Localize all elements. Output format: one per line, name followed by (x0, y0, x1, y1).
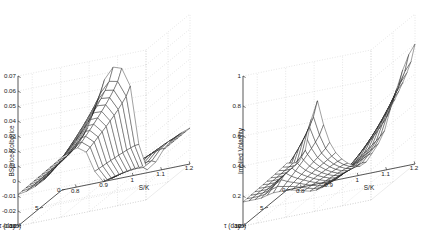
mesh-layer (243, 44, 415, 202)
x-axis-title: S/K (139, 184, 150, 191)
gridline-z-backwall (18, 50, 146, 76)
z-tick-label: 0.07 (4, 72, 17, 79)
x-tick-label: 1 (355, 176, 359, 183)
surface-plot-bsprice-kolbprice: -0.03-0.02-0.0100.010.020.030.040.050.06… (0, 0, 221, 241)
z-tick-label: 0.06 (4, 87, 17, 94)
y-axis-title: τ (days) (224, 222, 246, 230)
gridline-x-floor (61, 181, 105, 217)
gridline-z-backwall (243, 80, 371, 106)
mesh-quad (18, 188, 31, 195)
mesh-quad (58, 152, 71, 160)
x-tick-label: 1.1 (381, 170, 390, 177)
z-tick-label: 0.2 (232, 192, 241, 199)
x-axis-title: S/K (364, 184, 375, 191)
mesh-quad (177, 128, 190, 136)
figure-container: -0.03-0.02-0.0100.010.020.030.040.050.06… (0, 0, 442, 241)
z-tick-label: 0.05 (4, 102, 17, 109)
z-tick-label: -0.01 (2, 192, 17, 199)
gridline-z-rightwall (146, 74, 190, 110)
z-axis-title: Implied Volatility (237, 127, 245, 174)
z-tick-label: 0.8 (232, 102, 241, 109)
z-tick-label: 0.04 (4, 117, 17, 124)
gridline-z-backwall (243, 50, 371, 76)
y-tick-label: 0 (57, 186, 61, 193)
z-tick-label: -0.02 (2, 207, 17, 214)
x-tick-label: 1.2 (185, 164, 194, 171)
x-tick-label: 0.9 (324, 181, 333, 188)
x-tick-label: 0.9 (99, 181, 108, 188)
z-axis-title: BSprice-Kolbprice (8, 125, 16, 177)
gridline-x-floor (89, 176, 133, 212)
x-tick-label: 0.8 (296, 187, 305, 194)
y-axis-title: τ (days) (0, 222, 21, 230)
z-tick-label: 1 (238, 72, 242, 79)
x-tick-label: 1.1 (156, 170, 165, 177)
y-tick-label: 5 (35, 204, 39, 211)
surface-plot-implied-volatility: 00.20.40.60.8105100.80.911.11.2Implied V… (221, 0, 442, 241)
y-tick-label: 0 (282, 186, 286, 193)
gridline-x-floor (32, 187, 76, 223)
x-tick-label: 1.2 (410, 164, 419, 171)
z-tick-label: 0 (13, 177, 17, 184)
gridline-z-rightwall (146, 14, 190, 50)
mesh-quad (160, 139, 173, 149)
mesh-quad (405, 44, 415, 71)
x-tick-label: 0.8 (71, 187, 80, 194)
plot-panel-left: -0.03-0.02-0.0100.010.020.030.040.050.06… (0, 0, 221, 241)
y-tick-label: 5 (260, 204, 264, 211)
x-tick-label: 1 (130, 176, 134, 183)
plot-panel-right: 00.20.40.60.8105100.80.911.11.2Implied V… (221, 0, 442, 241)
gridline-z-rightwall (371, 14, 415, 50)
gridline-z-rightwall (371, 74, 415, 110)
